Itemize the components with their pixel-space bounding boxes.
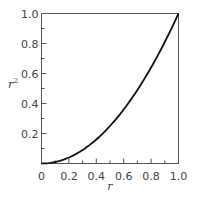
y-axis-ticks xyxy=(42,29,47,149)
y-axis-tick-labels: 0.20.40.60.81.0 xyxy=(21,8,39,141)
x-tick-label: 1.0 xyxy=(170,170,188,183)
y-axis-label: r2 xyxy=(8,76,18,91)
y-tick-label: 1.0 xyxy=(21,8,39,21)
plot-frame xyxy=(42,14,179,164)
y-tick-label: 0.2 xyxy=(21,128,39,141)
x-axis-label: r xyxy=(107,180,113,193)
y-tick-label: 0.6 xyxy=(21,68,39,81)
x-tick-label: 0.6 xyxy=(115,170,133,183)
plot-area-border xyxy=(42,14,179,164)
x-tick-label: 0 xyxy=(38,170,45,183)
x-tick-label: 0.2 xyxy=(60,170,78,183)
chart: 00.20.40.60.81.0 0.20.40.60.81.0 r r2 xyxy=(0,0,198,201)
x-tick-label: 0.4 xyxy=(88,170,106,183)
x-axis-ticks xyxy=(55,159,165,164)
x-tick-label: 0.8 xyxy=(142,170,160,183)
y-tick-label: 0.8 xyxy=(21,38,39,51)
y-tick-label: 0.4 xyxy=(21,98,39,111)
r-squared-curve xyxy=(42,14,179,164)
